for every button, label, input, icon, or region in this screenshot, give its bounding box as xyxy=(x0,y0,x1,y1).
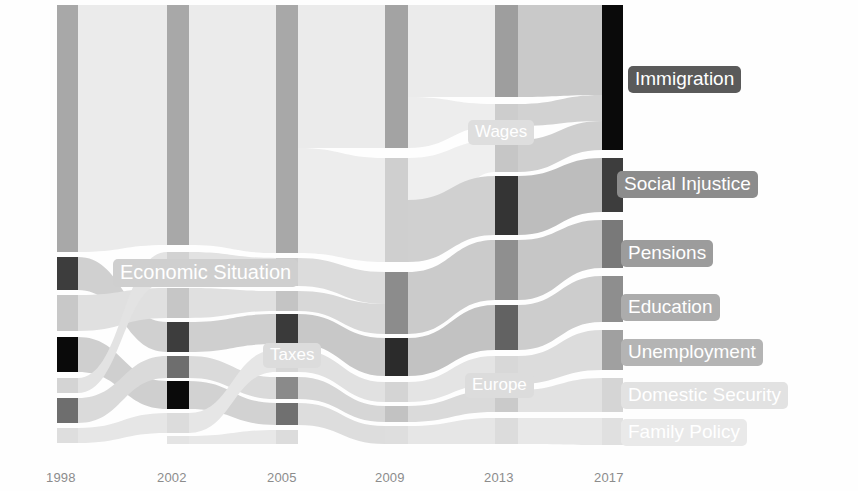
flow-ribbon[interactable] xyxy=(408,5,495,97)
category-label[interactable]: Social Injustice xyxy=(617,171,758,198)
node-bar[interactable] xyxy=(167,288,189,318)
node-bar[interactable] xyxy=(57,398,78,423)
node-bar[interactable] xyxy=(495,305,518,350)
node-bar[interactable] xyxy=(602,220,623,268)
node-bar[interactable] xyxy=(276,291,298,311)
category-label[interactable]: Family Policy xyxy=(621,419,747,446)
node-bar[interactable] xyxy=(495,418,518,444)
node-bar[interactable] xyxy=(385,158,408,262)
node-bar[interactable] xyxy=(385,406,408,422)
node-bar[interactable] xyxy=(495,5,518,97)
node-bar[interactable] xyxy=(385,272,408,334)
node-bar[interactable] xyxy=(167,413,189,433)
flow-ribbon[interactable] xyxy=(518,5,602,97)
node-bar[interactable] xyxy=(167,5,189,245)
node-bar[interactable] xyxy=(385,338,408,376)
node-bar[interactable] xyxy=(167,436,189,444)
node-bar[interactable] xyxy=(167,381,189,409)
node-bar[interactable] xyxy=(495,140,518,172)
node-bar[interactable] xyxy=(57,337,78,372)
flow-ribbon[interactable] xyxy=(408,418,495,444)
node-bar[interactable] xyxy=(495,240,518,300)
flow-ribbon[interactable] xyxy=(78,5,167,252)
flow-ribbon[interactable] xyxy=(189,430,276,444)
axis-tick-2005: 2005 xyxy=(267,470,297,485)
alluvial-chart-root: Economic SituationTaxesWagesEurope Immig… xyxy=(0,0,858,491)
node-bar[interactable] xyxy=(602,330,623,370)
category-label[interactable]: Immigration xyxy=(628,66,741,93)
node-bar[interactable] xyxy=(385,426,408,444)
node-bar[interactable] xyxy=(276,5,298,253)
node-bar[interactable] xyxy=(276,377,298,399)
node-bar[interactable] xyxy=(276,403,298,425)
node-bar[interactable] xyxy=(57,378,78,393)
node-bar[interactable] xyxy=(167,356,189,378)
node-bar[interactable] xyxy=(602,5,623,150)
axis-tick-2017: 2017 xyxy=(594,470,624,485)
node-bar[interactable] xyxy=(602,276,623,322)
node-bar[interactable] xyxy=(167,322,189,352)
flow-label[interactable]: Taxes xyxy=(263,343,321,368)
node-bar[interactable] xyxy=(385,382,408,402)
category-label[interactable]: Unemployment xyxy=(621,339,763,366)
node-bar[interactable] xyxy=(57,5,78,252)
node-bar[interactable] xyxy=(276,430,298,444)
category-label[interactable]: Pensions xyxy=(621,240,713,267)
flow-ribbon[interactable] xyxy=(298,5,385,148)
node-bar[interactable] xyxy=(57,428,78,443)
flow-ribbon[interactable] xyxy=(518,418,602,445)
axis-tick-2002: 2002 xyxy=(157,470,187,485)
flow-label[interactable]: Economic Situation xyxy=(113,259,298,287)
node-bar[interactable] xyxy=(57,257,78,290)
axis-tick-2009: 2009 xyxy=(375,470,405,485)
axis-tick-2013: 2013 xyxy=(484,470,514,485)
node-bar[interactable] xyxy=(602,378,623,412)
flow-ribbon[interactable] xyxy=(189,5,276,253)
category-label[interactable]: Education xyxy=(621,294,720,321)
node-bar[interactable] xyxy=(276,314,298,344)
category-label[interactable]: Domestic Security xyxy=(621,382,788,409)
node-bar[interactable] xyxy=(602,418,623,445)
axis-tick-1998: 1998 xyxy=(46,470,76,485)
node-bar[interactable] xyxy=(385,5,408,148)
flow-ribbon[interactable] xyxy=(298,148,385,262)
flow-label[interactable]: Europe xyxy=(465,373,534,398)
flow-label[interactable]: Wages xyxy=(468,120,534,145)
node-bar[interactable] xyxy=(57,295,78,331)
flow-ribbon[interactable] xyxy=(189,288,276,318)
node-bar[interactable] xyxy=(495,176,518,235)
